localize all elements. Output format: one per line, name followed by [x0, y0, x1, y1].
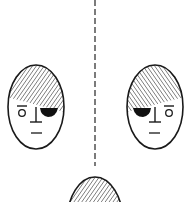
mirror-symmetry-diagram — [0, 0, 190, 202]
eyepatch-icon — [133, 108, 151, 117]
eyepatch-icon — [40, 108, 58, 117]
right-face — [111, 60, 190, 149]
eye-icon — [166, 110, 173, 117]
bottom-face-partial — [60, 170, 130, 202]
left-face — [0, 60, 80, 149]
eye-icon — [19, 110, 26, 117]
